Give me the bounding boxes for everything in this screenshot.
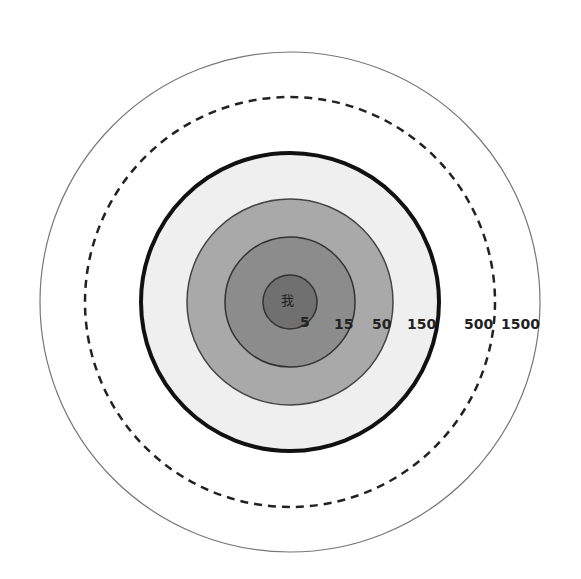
dunbar-circles-diagram: 我 515501505001500 xyxy=(0,0,581,579)
label-5: 5 xyxy=(300,314,310,330)
label-500: 500 xyxy=(464,316,493,332)
label-50: 50 xyxy=(372,316,392,332)
center-label-me: 我 xyxy=(281,293,294,308)
label-150: 150 xyxy=(407,316,436,332)
ring-labels: 515501505001500 xyxy=(300,314,540,332)
label-15: 15 xyxy=(334,316,353,332)
label-1500: 1500 xyxy=(501,316,540,332)
